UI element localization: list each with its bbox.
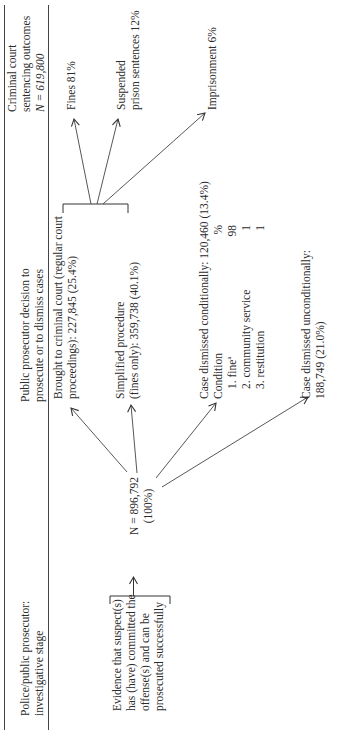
- header-sentencing-outcomes: Criminal court sentencing outcomes N = 6…: [5, 16, 47, 112]
- condition-row-label: 2. community service: [239, 239, 253, 399]
- total-count: N = 896,792: [127, 476, 141, 536]
- decision-line: 188,749 (21.0%): [313, 250, 327, 399]
- evidence-line: has (have) committed the: [124, 594, 138, 711]
- outcome-suspended: Suspended prison sentences 12%: [114, 10, 142, 110]
- total-percent: (100%): [141, 476, 155, 536]
- total-node: N = 896,792 (100%): [127, 476, 155, 536]
- header-line: Police/public prosecutor:: [18, 601, 32, 716]
- header-line: prosecute or to dismiss cases: [32, 268, 46, 402]
- condition-row: 2. community service 1: [239, 225, 253, 399]
- outcome-imprisonment: Imprisonment 6%: [205, 27, 219, 110]
- condition-row-value: 1: [253, 225, 267, 239]
- condition-row-label: 3. restitution: [253, 239, 267, 399]
- header-line: Public prosecutor decision to: [18, 268, 32, 402]
- header-investigative-stage: Police/public prosecutor: investigative …: [18, 601, 46, 716]
- condition-row-label: 1. finea: [225, 239, 239, 399]
- condition-table: Condition % 1. finea 98 2. community ser…: [211, 225, 267, 399]
- decision-simplified-procedure: Simplified procedure (fines only): 359,7…: [113, 262, 141, 399]
- outcome-line: Suspended: [114, 10, 128, 110]
- decision-dismissed-unconditionally: Case dismissed unconditionally: 188,749 …: [299, 250, 327, 399]
- decision-criminal-court: Brought to criminal court (regular court…: [51, 216, 79, 399]
- decision-line: proceedings): 227,845 (25.4%): [65, 216, 79, 399]
- decision-line: Brought to criminal court (regular court: [51, 216, 65, 399]
- header-line: investigative stage: [32, 601, 46, 716]
- header-line: N = 619,800: [33, 16, 47, 112]
- decision-title: Case dismissed conditionally: 120,460 (1…: [197, 181, 211, 399]
- outcome-line: prison sentences 12%: [128, 10, 142, 110]
- decision-line: (fines only): 359,738 (40.1%): [127, 262, 141, 399]
- condition-row-value: 98: [225, 225, 239, 239]
- condition-row-value: 1: [239, 225, 253, 239]
- evidence-box: Evidence that suspect(s) has (have) comm…: [110, 594, 166, 711]
- condition-row: 1. finea 98: [225, 225, 239, 399]
- header-line: Criminal court: [5, 16, 19, 112]
- decision-line: Case dismissed unconditionally:: [299, 250, 313, 399]
- header-line: sentencing outcomes: [19, 16, 33, 112]
- evidence-line: Evidence that suspect(s): [110, 594, 124, 711]
- outcome-line: Imprisonment 6%: [205, 27, 219, 110]
- outcome-line: Fines 81%: [64, 61, 78, 110]
- condition-row-text: 1. fine: [226, 360, 238, 389]
- decision-line: Simplified procedure: [113, 262, 127, 399]
- condition-pct-header: %: [211, 225, 225, 239]
- footnote-marker: a: [225, 357, 233, 360]
- decision-dismissed-conditionally: Case dismissed conditionally: 120,460 (1…: [197, 181, 267, 399]
- condition-label: Condition: [211, 239, 225, 399]
- outcome-fines: Fines 81%: [64, 61, 78, 110]
- court-bracket: [63, 204, 128, 213]
- decision-arrows: [71, 397, 308, 487]
- evidence-line: offense(s) and can be: [138, 594, 152, 711]
- condition-header-row: Condition %: [211, 225, 225, 399]
- condition-row: 3. restitution 1: [253, 225, 267, 399]
- evidence-line: prosecuted successfully: [152, 594, 166, 711]
- header-prosecutor-decision: Public prosecutor decision to prosecute …: [18, 268, 46, 402]
- outcome-arrows: [74, 113, 205, 204]
- flow-diagram: Police/public prosecutor: investigative …: [0, 0, 337, 730]
